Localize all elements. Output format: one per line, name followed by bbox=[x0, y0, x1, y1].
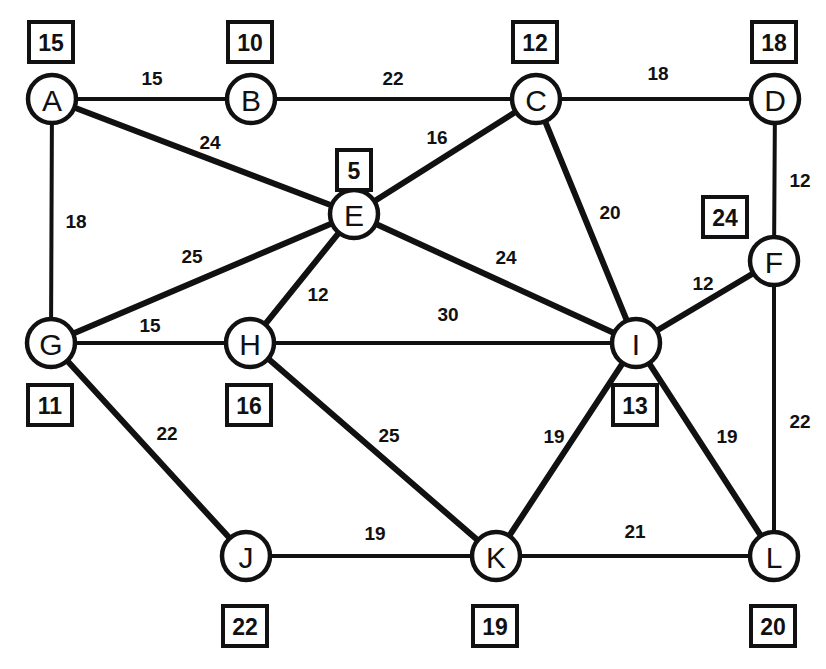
value-box-a: 15 bbox=[29, 22, 73, 62]
value-box-h: 16 bbox=[227, 385, 271, 425]
value-box-j: 22 bbox=[223, 606, 267, 646]
node-h[interactable]: H bbox=[226, 319, 274, 367]
edge-h-k bbox=[267, 358, 478, 541]
edge-weight-b-c: 22 bbox=[382, 68, 403, 89]
edge-weight-f-l: 22 bbox=[789, 411, 810, 432]
edge-weight-i-k: 19 bbox=[543, 426, 564, 447]
value-box-text-k: 19 bbox=[482, 614, 508, 640]
node-label-k: K bbox=[486, 541, 506, 574]
edge-c-e bbox=[373, 111, 516, 201]
node-e[interactable]: E bbox=[330, 190, 378, 238]
edge-weight-e-g: 25 bbox=[181, 246, 203, 267]
edge-e-i bbox=[375, 224, 615, 334]
value-box-text-g: 11 bbox=[38, 393, 63, 419]
node-label-d: D bbox=[764, 84, 786, 117]
edge-weight-d-f: 12 bbox=[789, 170, 810, 191]
edge-weight-f-i: 12 bbox=[692, 273, 713, 294]
value-box-text-b: 10 bbox=[237, 30, 263, 56]
edge-weight-h-k: 25 bbox=[378, 425, 400, 446]
edge-e-g bbox=[72, 223, 333, 334]
node-k[interactable]: K bbox=[472, 532, 520, 580]
node-a[interactable]: A bbox=[28, 75, 76, 123]
figure-canvas: 1522182418162012251224122215223025191919… bbox=[0, 0, 826, 669]
node-b[interactable]: B bbox=[227, 75, 275, 123]
edge-d-f bbox=[774, 122, 775, 238]
edge-weight-j-k: 19 bbox=[364, 523, 385, 544]
edge-weight-c-e: 16 bbox=[426, 127, 447, 148]
figure-caption bbox=[0, 661, 826, 669]
edge-weight-a-e: 24 bbox=[199, 132, 221, 153]
node-g[interactable]: G bbox=[27, 319, 75, 367]
edge-weight-c-i: 20 bbox=[599, 202, 620, 223]
edge-weight-i-l: 19 bbox=[716, 426, 737, 447]
value-box-text-d: 18 bbox=[761, 30, 787, 56]
node-label-j: J bbox=[239, 541, 254, 574]
node-label-l: L bbox=[766, 541, 783, 574]
node-l[interactable]: L bbox=[750, 532, 798, 580]
graph-diagram: 1522182418162012251224122215223025191919… bbox=[0, 0, 826, 669]
node-label-f: F bbox=[765, 246, 783, 279]
edge-weight-k-l: 21 bbox=[624, 521, 646, 542]
edge-i-l bbox=[649, 362, 762, 536]
edge-weight-g-h: 15 bbox=[139, 315, 161, 336]
edge-weight-g-j: 22 bbox=[156, 423, 177, 444]
edge-weight-h-i: 30 bbox=[437, 304, 458, 325]
node-label-h: H bbox=[239, 328, 261, 361]
value-box-text-h: 16 bbox=[236, 393, 262, 419]
node-j[interactable]: J bbox=[222, 532, 270, 580]
edge-weight-e-i: 24 bbox=[495, 247, 517, 268]
edge-weight-a-g: 18 bbox=[65, 211, 86, 232]
node-label-a: A bbox=[42, 84, 62, 117]
value-box-k: 19 bbox=[473, 606, 517, 646]
edge-weight-a-b: 15 bbox=[141, 68, 163, 89]
value-box-text-i: 13 bbox=[622, 393, 648, 419]
value-box-text-j: 22 bbox=[232, 614, 258, 640]
edge-i-k bbox=[509, 362, 624, 537]
node-label-e: E bbox=[344, 199, 364, 232]
value-box-text-e: 5 bbox=[348, 158, 361, 184]
value-box-text-f: 24 bbox=[712, 205, 738, 231]
node-d[interactable]: D bbox=[751, 75, 799, 123]
edge-weight-e-h: 12 bbox=[307, 284, 328, 305]
edge-a-e bbox=[73, 107, 332, 206]
value-box-text-a: 15 bbox=[38, 30, 64, 56]
node-i[interactable]: I bbox=[612, 319, 660, 367]
node-label-c: C bbox=[525, 84, 547, 117]
node-c[interactable]: C bbox=[512, 75, 560, 123]
edge-weight-c-d: 18 bbox=[647, 63, 668, 84]
value-box-i: 13 bbox=[613, 385, 657, 425]
node-f[interactable]: F bbox=[750, 237, 798, 285]
value-box-c: 12 bbox=[513, 22, 557, 62]
node-label-i: I bbox=[632, 328, 640, 361]
value-box-b: 10 bbox=[228, 22, 272, 62]
node-label-b: B bbox=[241, 84, 261, 117]
value-box-l: 20 bbox=[751, 606, 795, 646]
node-label-g: G bbox=[39, 328, 62, 361]
value-box-d: 18 bbox=[752, 22, 796, 62]
edge-a-g bbox=[51, 122, 52, 320]
value-box-text-l: 20 bbox=[760, 614, 786, 640]
edge-g-j bbox=[67, 360, 231, 539]
value-box-g: 11 bbox=[28, 385, 72, 425]
value-box-text-c: 12 bbox=[522, 30, 548, 56]
value-box-e: 5 bbox=[337, 150, 371, 190]
value-box-f: 24 bbox=[703, 197, 747, 237]
